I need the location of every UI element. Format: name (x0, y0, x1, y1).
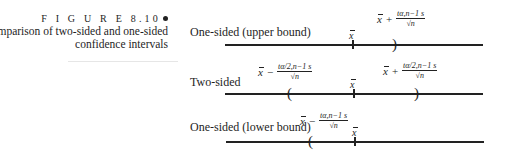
plus-operator: + (386, 13, 392, 25)
numerator: tα,n−1 s (396, 9, 425, 19)
figure-label: F I G U R E 8.10 (41, 13, 161, 24)
denominator: √n (290, 72, 298, 81)
xbar-symbol: x (383, 65, 388, 77)
row-label-lower: One-sided (lower bound) (190, 120, 311, 135)
mean-tick (353, 89, 355, 98)
xbar-symbol: x (258, 66, 263, 78)
upper-bound-expression: x + tα,n−1 s √n (377, 9, 425, 28)
left-paren-bound: ( (287, 86, 292, 101)
numerator: tα,n−1 s (319, 111, 348, 121)
minus-operator: − (267, 66, 273, 78)
caption-divider (68, 61, 178, 62)
number-line-upper (225, 44, 483, 46)
fraction: tα,n−1 s √n (396, 9, 425, 28)
minus-operator: − (309, 115, 315, 127)
denominator: √n (415, 71, 423, 80)
numerator: tα/2,n−1 s (277, 62, 312, 72)
denominator: √n (329, 121, 337, 130)
upper-bound-expression: x + tα/2,n−1 s √n (383, 61, 437, 80)
denominator: √n (406, 19, 414, 28)
lower-bound-expression: x − tα/2,n−1 s √n (258, 62, 312, 81)
lower-bound-expression: x − tα,n−1 s √n (300, 111, 348, 130)
fraction: tα/2,n−1 s √n (277, 62, 312, 81)
caption-title-line1: Comparison of two-sided and one-sided (0, 25, 168, 38)
right-paren-bound: ) (392, 37, 397, 52)
row-label-upper: One-sided (upper bound) (190, 25, 311, 40)
caption-title-line2: confidence intervals (0, 38, 168, 51)
fraction: tα,n−1 s √n (319, 111, 348, 130)
bullet-icon (163, 16, 168, 21)
fraction: tα/2,n−1 s √n (402, 61, 437, 80)
left-paren-bound: ( (308, 134, 313, 149)
right-paren-bound: ) (414, 86, 419, 101)
figure-caption: F I G U R E 8.10 Comparison of two-sided… (0, 12, 168, 51)
numerator: tα/2,n−1 s (402, 61, 437, 71)
mean-tick (354, 137, 356, 146)
mean-tick (352, 40, 354, 49)
row-label-two-sided: Two-sided (190, 75, 240, 90)
xbar-symbol: x (377, 13, 382, 25)
xbar-symbol: x (300, 115, 305, 127)
plus-operator: + (392, 65, 398, 77)
